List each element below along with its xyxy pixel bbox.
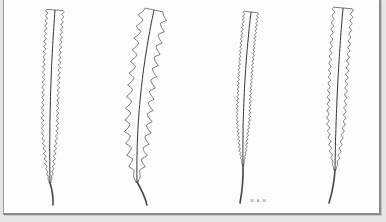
- leaf-3: [236, 11, 258, 203]
- artist-signature: W.A.M.: [250, 198, 269, 203]
- leaf-blade-outline: [236, 11, 258, 165]
- leaf-blade-outline: [327, 7, 353, 170]
- leaf-4: [327, 7, 353, 203]
- leaf-petiole: [137, 182, 147, 205]
- leaf-2: [124, 8, 166, 205]
- leaf-blade-outline: [124, 8, 166, 182]
- leaf-petiole: [50, 183, 53, 205]
- leaf-1: [42, 9, 65, 205]
- leaf-petiole: [240, 165, 243, 203]
- leaf-drawing: [0, 0, 386, 222]
- illustration-plate: W.A.M.: [0, 0, 386, 222]
- leaf-petiole: [329, 170, 335, 203]
